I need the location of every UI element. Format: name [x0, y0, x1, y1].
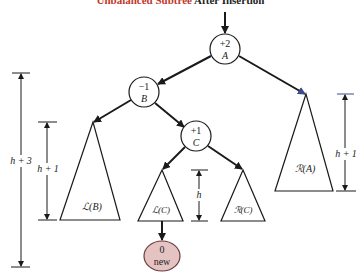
node-new: 0 new	[144, 241, 180, 271]
node-c-label: C	[193, 137, 200, 148]
node-a: +2 A	[210, 34, 240, 64]
edge-b-lb	[94, 100, 131, 122]
dimension-left-h-plus-1: h + 1	[34, 122, 62, 220]
dimension-right-h-plus-1: h + 1	[331, 94, 361, 191]
dimension-h-plus-3: h + 3	[6, 73, 36, 267]
node-a-balance: +2	[220, 38, 231, 49]
edge-c-lc	[163, 147, 185, 169]
node-c-balance: +1	[191, 125, 202, 136]
edge-a-ra	[239, 56, 305, 94]
dimension-h-label: h	[197, 189, 202, 200]
dimension-h: h	[191, 170, 208, 221]
edge-b-c	[155, 103, 184, 127]
node-b-balance: −1	[139, 81, 150, 92]
subtree-ra-label: ℛ(A)	[295, 163, 316, 175]
node-b-label: B	[141, 93, 147, 104]
node-c: +1 C	[181, 121, 211, 151]
subtree-lb: ℒ(B)	[60, 122, 120, 220]
node-new-label: new	[154, 256, 171, 267]
avl-tree-diagram: +2 A −1 B +1 C 0 new ℒ(B) ℒ(C) ℛ(C) ℛ(A)	[0, 0, 361, 275]
dimension-h-plus-3-label: h + 3	[10, 155, 32, 166]
dimension-left-h-plus-1-label: h + 1	[37, 163, 59, 174]
node-b: −1 B	[129, 77, 159, 107]
subtree-lc: ℒ(C)	[138, 170, 183, 221]
subtree-rc: ℛ(C)	[221, 170, 265, 221]
node-a-label: A	[221, 50, 229, 61]
edge-c-rc	[208, 146, 242, 169]
subtree-lc-label: ℒ(C)	[152, 205, 170, 215]
subtree-ra: ℛ(A)	[275, 94, 333, 191]
node-new-balance: 0	[160, 244, 165, 255]
subtree-lb-label: ℒ(B)	[82, 201, 102, 213]
dimension-right-h-plus-1-label: h + 1	[335, 148, 357, 159]
subtree-rc-label: ℛ(C)	[234, 205, 253, 215]
edge-a-b	[158, 56, 211, 84]
